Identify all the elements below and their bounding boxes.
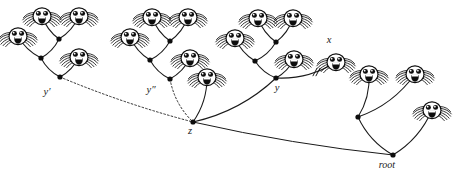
tree-edge [170,79,193,122]
tree-edge [60,77,193,122]
face-node-icon [396,66,435,85]
face-node-icon [171,50,210,69]
face-node-icon [239,10,278,29]
tree-node-dot [38,55,43,60]
face-node-icon [133,9,172,28]
face-node-icon [60,8,99,27]
labels-layer: y′y″yxzroot [43,34,396,170]
tree-edge [41,39,59,58]
tree-node-dot [167,76,172,81]
tree-diagram: y′y″yxzroot [0,0,454,178]
tree-node-dot [147,57,152,62]
tree-edge [41,58,60,77]
tree-node-dot [273,75,278,80]
face-node-icon [413,102,452,121]
face-node-icon [274,10,313,29]
face-node-icon [350,66,389,85]
face-node-icon [169,9,208,28]
node-label-root: root [379,159,396,170]
tree-edge [358,117,393,155]
node-label-y-prime: y′ [43,86,52,97]
nodes-layer [0,8,451,158]
face-node-icon [317,54,356,73]
tree-node-dot [273,39,278,44]
face-node-icon [60,49,99,68]
face-node-icon [216,30,255,49]
face-node-icon [275,51,314,70]
face-node-icon [188,69,227,88]
node-label-y-double: y″ [145,84,156,95]
tree-node-dot [167,38,172,43]
tree-edge [150,41,170,60]
node-label-y: y [274,82,280,93]
face-node-icon [23,8,62,27]
tree-node-dot [355,114,360,119]
tree-edge [255,61,276,78]
tree-node-dot [56,36,61,41]
tree-node-dot [57,74,62,79]
tree-node-dot [190,119,195,124]
tree-edge [255,42,276,61]
node-label-x: x [326,34,332,45]
figure-canvas: y′y″yxzroot [0,0,454,178]
face-node-icon [0,28,37,47]
node-label-z: z [187,125,192,136]
tree-edge [150,60,170,79]
face-node-icon [111,29,150,48]
tree-node-dot [252,58,257,63]
tree-node-dot [390,152,395,157]
